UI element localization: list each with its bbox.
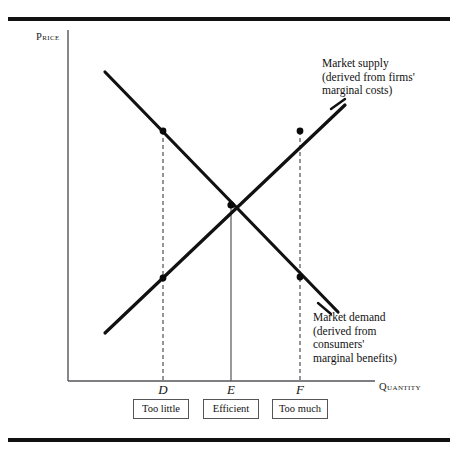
supply-annotation: Market supply (derived from firms' margi… <box>322 57 415 98</box>
y-axis-label: Price <box>36 31 60 42</box>
marker-equilibrium <box>227 201 234 208</box>
callout-efficient: Efficient <box>203 399 259 419</box>
callout-too-little: Too little <box>133 399 189 419</box>
x-axis-label: Quantity <box>379 381 421 392</box>
supply-demand-figure: Price Quantity Market supply (derived fr… <box>0 0 458 456</box>
tick-label-e: E <box>219 382 243 398</box>
marker-supply-at-d <box>160 275 167 282</box>
marker-supply-at-f <box>297 128 304 135</box>
demand-annotation: Market demand (derived from consumers' m… <box>313 311 397 365</box>
tick-label-d: D <box>151 382 175 398</box>
marker-demand-at-d <box>160 128 167 135</box>
supply-curve <box>105 105 345 333</box>
tick-label-f: F <box>288 382 312 398</box>
callout-too-much: Too much <box>272 399 328 419</box>
marker-demand-at-f <box>297 274 304 281</box>
